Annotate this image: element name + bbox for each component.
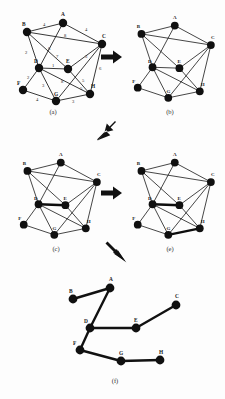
node-label-a: A	[61, 11, 65, 17]
edge-d-e-selected	[153, 204, 180, 205]
node-b	[138, 167, 146, 175]
node-label-g: G	[166, 89, 170, 94]
weight-a-d: 7	[56, 54, 59, 59]
node-label-e: E	[178, 59, 182, 64]
caption-b: (b)	[150, 108, 190, 115]
tree-edge-g-h	[121, 360, 160, 361]
panel-f: A B C D E F G H	[18, 268, 203, 373]
weight-b-d: 2	[25, 50, 28, 55]
panel-b: A B C D E F G H	[122, 6, 222, 110]
weight-d-f: 2	[27, 75, 30, 80]
node-label-a: A	[173, 15, 177, 20]
arrow-e-to-f	[104, 240, 128, 264]
node-label-e: E	[178, 196, 182, 201]
node-d	[35, 64, 43, 72]
weight-b-c: 8	[64, 33, 67, 38]
node-e	[62, 201, 70, 209]
arrow-right-icon	[101, 50, 123, 64]
weight-f-g: 4	[36, 97, 39, 102]
weight-g-h: 3	[72, 99, 75, 104]
node-c	[93, 178, 101, 186]
node-label-e: E	[66, 58, 70, 64]
node-e	[176, 64, 184, 72]
nodes-c	[20, 159, 101, 239]
node-label-e: E	[64, 196, 68, 201]
node-label-c: C	[211, 35, 215, 40]
weight-d-h: 8	[61, 79, 64, 84]
node-label-f: F	[18, 216, 21, 221]
arrow-right-icon	[101, 186, 123, 200]
edge-d-e-selected	[39, 204, 66, 205]
node-h	[156, 356, 165, 365]
graph-e: A B C D E F G H	[122, 143, 222, 247]
tree-node-labels-f: A B C D E F G H	[69, 276, 179, 356]
caption-c: (c)	[36, 245, 76, 252]
node-h	[86, 90, 94, 98]
node-b	[69, 295, 78, 304]
node-b	[138, 30, 146, 38]
node-label-c: C	[97, 172, 101, 177]
node-f	[76, 346, 85, 355]
node-label-d: D	[34, 196, 38, 201]
graph-f-mst: A B C D E F G H	[18, 268, 203, 373]
node-h	[82, 224, 90, 232]
node-label-h: H	[91, 83, 96, 89]
node-label-d: D	[148, 196, 152, 201]
weight-d-e: 1	[52, 63, 55, 68]
node-label-f: F	[132, 216, 135, 221]
node-f	[134, 221, 142, 229]
graph-c: A B C D E F G H	[8, 143, 108, 247]
nodes-a	[19, 19, 106, 105]
node-d	[35, 200, 43, 208]
tree-edge-f-g	[80, 350, 121, 361]
node-label-a: A	[59, 152, 63, 157]
node-h	[196, 224, 204, 232]
node-label-g: G	[166, 226, 170, 231]
node-label-b: B	[137, 161, 141, 166]
graph-b: A B C D E F G H	[122, 6, 222, 110]
node-a	[59, 19, 67, 27]
node-e	[132, 324, 141, 333]
node-label-b: B	[22, 21, 26, 27]
nodes-b	[134, 22, 215, 102]
edge-d-e	[153, 67, 180, 68]
node-g	[50, 231, 58, 239]
node-label-h: H	[159, 349, 164, 355]
arrow-c-to-e	[101, 186, 123, 200]
node-label-d: D	[84, 318, 88, 324]
node-e	[64, 65, 72, 73]
node-label-g: G	[119, 350, 124, 356]
edge-b-a	[141, 163, 174, 171]
node-c	[207, 41, 215, 49]
node-d	[149, 63, 157, 71]
node-f	[20, 221, 28, 229]
node-f	[19, 86, 27, 94]
node-b	[23, 28, 31, 36]
node-d	[86, 324, 95, 333]
node-label-a: A	[109, 276, 113, 282]
weight-d-g: 3	[42, 83, 45, 88]
node-a	[171, 159, 179, 167]
nodes-e	[134, 159, 215, 239]
node-label-b: B	[137, 24, 141, 29]
weight-b-a: 4	[43, 22, 46, 27]
panel-e: A B C D E F G H	[122, 143, 222, 247]
node-label-d: D	[34, 58, 38, 64]
node-b	[24, 167, 32, 175]
node-label-g: G	[54, 91, 59, 97]
node-e	[176, 201, 184, 209]
node-label-f: F	[17, 80, 21, 86]
node-label-c: C	[175, 293, 179, 299]
node-c	[98, 40, 106, 48]
weight-c-g: 5	[82, 78, 85, 83]
node-f	[134, 84, 142, 92]
node-label-h: H	[201, 82, 205, 87]
panel-a: 4 4 8 6 7 2 1 3 6 5 2 3 8 5 4 3	[6, 6, 114, 110]
node-d	[149, 200, 157, 208]
node-label-a: A	[173, 152, 177, 157]
caption-e: (e)	[150, 245, 190, 252]
graph-a: 4 4 8 6 7 2 1 3 6 5 2 3 8 5 4 3	[6, 6, 114, 110]
node-label-d: D	[148, 59, 152, 64]
node-h	[196, 87, 204, 95]
node-label-g: G	[52, 226, 56, 231]
